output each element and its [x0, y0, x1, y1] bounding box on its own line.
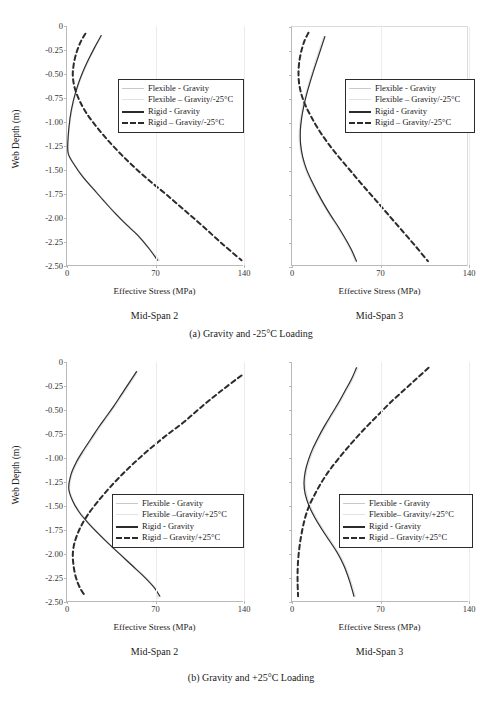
- y-tick-mark: [64, 74, 67, 75]
- y-tick-mark: [289, 482, 292, 483]
- y-tick-label: 0: [59, 357, 63, 367]
- y-tick-mark: [64, 194, 67, 195]
- x-tick-label: 0: [65, 604, 69, 614]
- y-tick-mark: [64, 578, 67, 579]
- y-tick-mark: [289, 147, 292, 148]
- y-tick-mark: [289, 458, 292, 459]
- x-tick-label: 0: [290, 268, 294, 278]
- series-line: [73, 375, 242, 596]
- span-label-a2: Mid-Span 2: [66, 310, 243, 321]
- legend-a3: Flexible - Gravity Flexible – Gravity/-2…: [345, 79, 475, 133]
- legend-label: Rigid - Gravity: [375, 106, 427, 116]
- legend-item: Flexible –Gravity/+25°C: [116, 509, 239, 521]
- chart-panel-b-midspan-3: 070140 Effective Stress (MPa) Mid-Span 3…: [251, 350, 502, 660]
- legend-swatch-line-icon: [116, 498, 138, 507]
- y-tick-label: -0.25: [45, 45, 63, 55]
- y-tick-label: -1.50: [45, 501, 63, 511]
- y-tick-mark: [64, 146, 67, 147]
- legend-item: Rigid - Gravity: [349, 105, 470, 117]
- legend-label: Flexible - Gravity: [369, 498, 430, 508]
- y-tick-mark: [289, 51, 292, 52]
- y-tick-label: -2.50: [45, 597, 63, 607]
- y-tick-mark: [289, 554, 292, 555]
- span-label-b3: Mid-Span 3: [291, 646, 468, 657]
- legend-swatch-line-icon: [343, 498, 365, 507]
- series-line: [300, 37, 356, 262]
- x-tick-label: 0: [65, 268, 69, 278]
- gridline: [469, 362, 470, 601]
- legend-label: Flexible - Gravity: [142, 498, 203, 508]
- x-axis-title-b3: Effective Stress (MPa): [291, 622, 468, 632]
- legend-item: Rigid – Gravity/-25°C: [122, 117, 239, 129]
- legend-swatch-dashed-line-icon: [349, 118, 371, 127]
- legend-item: Flexible - Gravity: [122, 82, 239, 94]
- legend-item: Rigid - Gravity: [122, 105, 239, 117]
- legend-label: Flexible –Gravity/+25°C: [142, 509, 227, 519]
- figure-page: Web Depth (m) 0-0.25-0.50-0.75-1.00-1.25…: [0, 0, 502, 701]
- x-tick-label: 140: [238, 604, 251, 614]
- y-tick-mark: [289, 219, 292, 220]
- x-axis-title-a2: Effective Stress (MPa): [66, 286, 243, 296]
- legend-label: Rigid – Gravity/-25°C: [375, 117, 451, 127]
- legend-item: Flexible– Gravity/+25°C: [343, 509, 468, 521]
- x-tick-label: 70: [151, 604, 160, 614]
- series-line: [304, 368, 356, 596]
- legend-label: Flexible – Gravity/-25°C: [375, 94, 460, 104]
- y-tick-label: -1.75: [45, 189, 63, 199]
- caption-b: (b) Gravity and +25°C Loading: [0, 672, 502, 683]
- plot-area-a3: 070140: [291, 26, 468, 266]
- y-tick-mark: [289, 195, 292, 196]
- legend-swatch-dashed-line-icon: [343, 533, 365, 542]
- y-tick-mark: [64, 554, 67, 555]
- legend-label: Flexible– Gravity/+25°C: [369, 509, 454, 519]
- series-line: [298, 33, 427, 261]
- gridline: [244, 26, 245, 265]
- legend-item: Flexible - Gravity: [349, 82, 470, 94]
- legend-swatch-line-icon: [122, 83, 144, 92]
- y-tick-mark: [64, 458, 67, 459]
- y-tick-label: -1.25: [45, 477, 63, 487]
- legend-item: Flexible – Gravity/-25°C: [349, 94, 470, 106]
- y-tick-label: -2.00: [45, 213, 63, 223]
- legend-swatch-line-icon: [349, 106, 371, 115]
- y-tick-mark: [64, 170, 67, 171]
- x-tick-label: 70: [151, 268, 160, 278]
- x-tick-label: 70: [376, 604, 385, 614]
- y-tick-mark: [289, 171, 292, 172]
- x-tick-label: 140: [463, 268, 476, 278]
- legend-item: Rigid – Gravity/+25°C: [343, 532, 468, 544]
- gridline: [381, 362, 382, 601]
- legend-a2: Flexible - Gravity Flexible – Gravity/-2…: [118, 79, 244, 133]
- legend-b3: Flexible - Gravity Flexible– Gravity/+25…: [339, 494, 473, 548]
- y-tick-mark: [289, 99, 292, 100]
- legend-item: Rigid – Gravity/+25°C: [116, 532, 239, 544]
- y-tick-mark: [289, 75, 292, 76]
- chart-panel-b-midspan-2: Web Depth (m) 0-0.25-0.50-0.75-1.00-1.25…: [0, 350, 251, 660]
- legend-swatch-dashed-line-icon: [116, 533, 138, 542]
- y-tick-mark: [64, 122, 67, 123]
- legend-swatch-line-icon: [349, 95, 371, 104]
- x-tick-label: 70: [376, 268, 385, 278]
- caption-a: (a) Gravity and -25°C Loading: [0, 328, 502, 339]
- plot-area-b2: 0-0.25-0.50-0.75-1.00-1.25-1.50-1.75-2.0…: [66, 362, 243, 602]
- legend-label: Flexible – Gravity/-25°C: [148, 94, 233, 104]
- y-tick-mark: [289, 530, 292, 531]
- y-tick-label: -0.50: [45, 405, 63, 415]
- y-tick-mark: [289, 362, 292, 363]
- y-tick-label: 0: [59, 21, 63, 31]
- series-line: [300, 37, 356, 262]
- series-line: [298, 368, 429, 596]
- y-tick-mark: [64, 50, 67, 51]
- series-line: [69, 372, 160, 597]
- y-tick-mark: [64, 98, 67, 99]
- y-tick-label: -1.75: [45, 525, 63, 535]
- y-tick-label: -1.50: [45, 165, 63, 175]
- y-tick-label: -2.00: [45, 549, 63, 559]
- y-tick-mark: [64, 242, 67, 243]
- cut-off-header-text: [8, 0, 494, 11]
- legend-swatch-line-icon: [343, 521, 365, 530]
- y-tick-label: -0.25: [45, 381, 63, 391]
- y-tick-mark: [289, 410, 292, 411]
- y-tick-mark: [64, 434, 67, 435]
- legend-item: Rigid - Gravity: [343, 520, 468, 532]
